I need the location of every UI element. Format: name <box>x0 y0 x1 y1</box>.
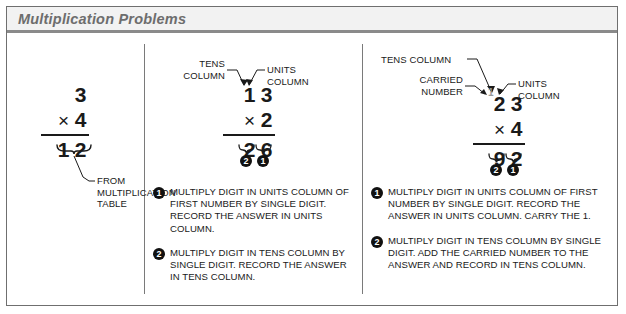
units-brace <box>505 153 522 163</box>
instruction-step: 1 MULTIPLY DIGIT IN UNITS COLUMN OF FIRS… <box>153 186 353 235</box>
column-two-digit-with-carry: TENS COLUMN CARRIED NUMBER UNITS COLUMN … <box>363 36 619 305</box>
instruction-step: 2 MULTIPLY DIGIT IN TENS COLUMN BY SINGL… <box>371 235 611 272</box>
sum-rule <box>473 143 525 145</box>
callout-units-column: UNITS COLUMN <box>518 78 580 101</box>
multiplier-row: × 4 <box>473 118 525 140</box>
instruction-list-3: 1 MULTIPLY DIGIT IN UNITS COLUMN OF FIRS… <box>371 186 611 283</box>
badge-step-2: 2 <box>371 236 383 248</box>
digit: 3 <box>258 84 275 105</box>
multiplicand-row: 1 3 <box>223 84 275 105</box>
instruction-step: 2 MULTIPLY DIGIT IN TENS COLUMN BY SINGL… <box>153 247 353 284</box>
tens-brace <box>488 153 505 163</box>
badge-step-2: 2 <box>240 155 252 167</box>
digit: 4 <box>508 118 525 139</box>
diagram-body: 3 × 4 1 2 <box>7 36 617 305</box>
badge-step-2: 2 <box>490 164 502 176</box>
step-badges: 2 1 <box>490 164 519 176</box>
digit: 3 <box>72 84 89 105</box>
badge-step-1: 1 <box>153 187 165 199</box>
digit: 1 <box>241 84 258 105</box>
product-brace <box>56 144 92 155</box>
sum-rule <box>41 134 89 136</box>
callout-units-column: UNITS COLUMN <box>267 64 329 87</box>
instruction-text: MULTIPLY DIGIT IN UNITS COLUMN OF FIRST … <box>388 186 611 223</box>
multiplicand-row: 2 3 <box>473 93 525 114</box>
leader-lines-column-1 <box>7 36 144 305</box>
operator-sign: × <box>241 110 258 131</box>
digit: 2 <box>491 93 508 114</box>
multiplier-row: × 2 <box>223 109 275 131</box>
digit: 4 <box>72 109 89 130</box>
sum-rule <box>223 134 275 136</box>
column-two-digit-no-carry: TENS COLUMN UNITS COLUMN 1 3 <box>145 36 362 305</box>
diagram-frame: Multiplication Problems 3 × 4 <box>6 6 618 306</box>
multiplier-row: × 4 <box>41 109 89 131</box>
title-banner: Multiplication Problems <box>7 7 617 33</box>
badge-step-1: 1 <box>371 187 383 199</box>
instruction-step: 1 MULTIPLY DIGIT IN UNITS COLUMN OF FIRS… <box>371 186 611 223</box>
page-title: Multiplication Problems <box>18 11 186 27</box>
units-brace <box>255 144 272 154</box>
step-badges: 2 1 <box>240 155 269 167</box>
callout-tens-column: TENS COLUMN <box>161 58 225 81</box>
instruction-list-2: 1 MULTIPLY DIGIT IN UNITS COLUMN OF FIRS… <box>153 186 353 295</box>
badge-step-1: 1 <box>507 164 519 176</box>
column-single-digit: 3 × 4 1 2 <box>7 36 144 305</box>
badge-step-1: 1 <box>257 155 269 167</box>
callout-tens-column: TENS COLUMN <box>381 54 491 66</box>
digit: 3 <box>508 93 525 114</box>
badge-step-2: 2 <box>153 248 165 260</box>
multiplicand-row: 3 <box>41 84 89 105</box>
instruction-text: MULTIPLY DIGIT IN TENS COLUMN BY SINGLE … <box>170 247 353 284</box>
instruction-text: MULTIPLY DIGIT IN UNITS COLUMN OF FIRST … <box>170 186 353 235</box>
operator-sign: × <box>491 119 508 140</box>
instruction-text: MULTIPLY DIGIT IN TENS COLUMN BY SINGLE … <box>388 235 611 272</box>
tens-brace <box>238 144 255 154</box>
digit: 2 <box>258 109 275 130</box>
operator-sign: × <box>55 110 72 131</box>
callout-carried-number: CARRIED NUMBER <box>381 74 463 97</box>
diagram-page: Multiplication Problems 3 × 4 <box>0 0 626 314</box>
